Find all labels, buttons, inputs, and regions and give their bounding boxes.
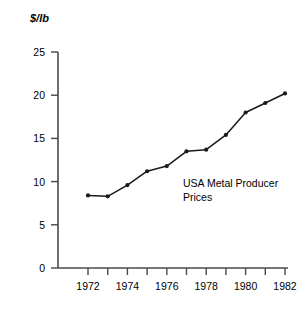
y-axis-title: $/lb [29,12,49,24]
x-tick-label-1980: 1980 [234,280,258,292]
data-point-1973 [106,194,110,198]
data-point-1977 [184,149,188,153]
y-tick-label-20: 20 [33,89,45,101]
x-tick-label-1976: 1976 [155,280,179,292]
chart-annotation-line-1: USA Metal Producer [183,177,279,189]
chart-container: $/lb 25 20 15 10 5 0 [0,0,306,313]
y-tick-label-15: 15 [33,132,45,144]
y-tick-label-5: 5 [39,219,45,231]
x-tick-label-1974: 1974 [116,280,140,292]
y-tick-label-10: 10 [33,176,45,188]
x-tick-label-1972: 1972 [76,280,100,292]
data-point-1976 [165,164,169,168]
chart-annotation-line-2: Prices [183,191,212,203]
x-tick-label-1982: 1982 [273,280,297,292]
line-chart: $/lb 25 20 15 10 5 0 [0,0,306,313]
data-point-1979 [224,133,228,137]
chart-background [0,0,306,313]
x-tick-label-1978: 1978 [195,280,219,292]
data-point-1982 [283,91,287,95]
data-point-1972 [86,193,90,197]
data-point-1978 [204,148,208,152]
data-point-1974 [125,183,129,187]
y-tick-label-0: 0 [39,262,45,274]
data-point-1981 [263,101,267,105]
data-point-1980 [244,110,248,114]
data-point-1975 [145,169,149,173]
y-tick-label-25: 25 [33,46,45,58]
